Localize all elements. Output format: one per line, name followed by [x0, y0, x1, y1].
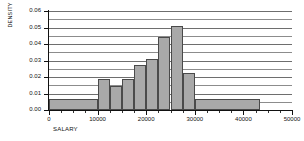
x-tick-mark	[146, 111, 147, 115]
x-tick-minor-mark	[110, 111, 111, 113]
plot-area	[49, 11, 292, 110]
x-tick-mark	[292, 111, 293, 115]
x-tick-mark	[243, 111, 244, 115]
histogram-bar	[146, 59, 158, 110]
x-tick-minor-mark	[268, 111, 269, 113]
y-tick-label: 0.04	[0, 40, 41, 46]
x-tick-label: 40000	[235, 116, 252, 122]
y-tick-mark	[44, 28, 49, 29]
y-tick-label: 0.05	[0, 24, 41, 30]
histogram-bar	[134, 65, 146, 110]
histogram-bar	[171, 26, 183, 110]
histogram-bar	[158, 37, 170, 110]
x-tick-minor-mark	[73, 111, 74, 113]
bars-group	[49, 11, 292, 110]
x-tick-minor-mark	[85, 111, 86, 113]
histogram-bar	[49, 99, 98, 110]
x-tick-label: 10000	[89, 116, 106, 122]
x-tick-label: 0	[47, 116, 50, 122]
histogram-chart: DENSITY 0.000.010.020.030.040.050.06 010…	[0, 0, 304, 141]
x-tick-mark	[49, 111, 50, 115]
x-tick-minor-mark	[61, 111, 62, 113]
y-tick-mark	[44, 94, 49, 95]
y-tick-label: 0.02	[0, 73, 41, 79]
x-tick-minor-mark	[122, 111, 123, 113]
y-tick-mark	[44, 11, 49, 12]
x-tick-mark	[195, 111, 196, 115]
x-tick-minor-mark	[207, 111, 208, 113]
histogram-bar	[183, 73, 195, 110]
y-tick-label: 0.03	[0, 57, 41, 63]
x-tick-minor-mark	[231, 111, 232, 113]
x-axis-title: SALARY	[53, 126, 78, 132]
x-tick-label: 30000	[186, 116, 203, 122]
x-tick-minor-mark	[280, 111, 281, 113]
y-tick-mark	[44, 77, 49, 78]
x-tick-minor-mark	[171, 111, 172, 113]
histogram-bar	[122, 79, 134, 110]
histogram-bar	[98, 79, 110, 110]
y-tick-mark	[44, 44, 49, 45]
x-tick-minor-mark	[183, 111, 184, 113]
y-tick-label: 0.06	[0, 7, 41, 13]
x-tick-minor-mark	[256, 111, 257, 113]
x-tick-label: 20000	[138, 116, 155, 122]
x-tick-minor-mark	[134, 111, 135, 113]
histogram-bar	[110, 86, 122, 110]
x-tick-minor-mark	[219, 111, 220, 113]
x-tick-mark	[98, 111, 99, 115]
histogram-bar	[195, 99, 261, 110]
y-tick-label: 0.01	[0, 90, 41, 96]
x-tick-minor-mark	[158, 111, 159, 113]
x-tick-label: 50000	[284, 116, 301, 122]
y-tick-mark	[44, 61, 49, 62]
y-tick-label: 0.00	[0, 106, 41, 112]
